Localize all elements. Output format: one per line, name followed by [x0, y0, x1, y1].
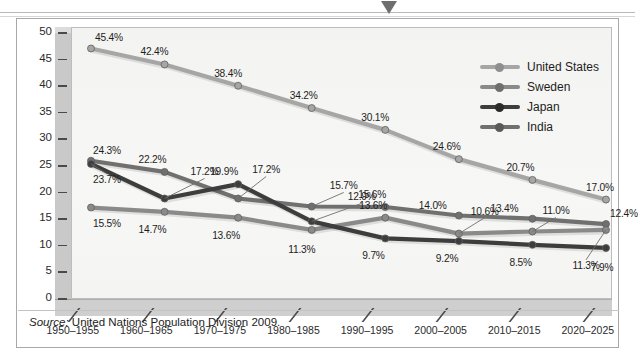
page-rule-top [0, 12, 635, 13]
data-point[interactable] [382, 214, 389, 221]
data-label: 42.4% [141, 46, 169, 57]
data-label: 19.9% [210, 166, 238, 177]
data-label: 14.0% [419, 200, 447, 211]
label-leader-line [312, 192, 344, 206]
y-tick-label: 20 [30, 185, 52, 197]
page-rule-top-secondary [0, 16, 635, 17]
data-point[interactable] [308, 105, 315, 112]
figure-box: 05101520253035404550 45.4%42.4%38.4%34.2… [16, 18, 619, 348]
data-label: 38.4% [214, 68, 242, 79]
data-label: 14.7% [139, 224, 167, 235]
legend-marker-united-states [480, 61, 520, 73]
data-point[interactable] [161, 61, 168, 68]
data-label: 20.7% [506, 162, 534, 173]
data-label: 45.4% [95, 32, 123, 43]
y-tick-label: 50 [30, 25, 52, 37]
source-text: United Nations Population Division 2009. [69, 316, 281, 328]
data-label: 13.6% [359, 200, 387, 211]
y-tick-label: 30 [30, 131, 52, 143]
data-label: 24.6% [433, 141, 461, 152]
data-label: 22.2% [139, 154, 167, 165]
legend-marker-sweden [480, 81, 520, 93]
data-label: 15.7% [330, 180, 358, 191]
x-tick-label: 2000–2005 [414, 324, 467, 336]
down-triangle-icon [381, 1, 397, 14]
source-note: Source: United Nations Population Divisi… [29, 316, 280, 328]
y-tick-label: 35 [30, 105, 52, 117]
data-label: 8.5% [509, 257, 531, 268]
y-tick-label: 5 [30, 264, 52, 276]
data-label: 30.1% [361, 112, 389, 123]
data-label: 12.4% [610, 208, 638, 219]
y-tick-label: 15 [30, 211, 52, 223]
x-tick-label: 2020–2025 [562, 324, 615, 336]
data-point[interactable] [603, 244, 610, 251]
data-label: 24.3% [93, 145, 121, 156]
data-label: 9.7% [362, 250, 384, 261]
data-label: 11.0% [542, 205, 569, 216]
data-label: 17.2% [252, 164, 280, 175]
data-label: 9.2% [436, 253, 458, 264]
legend-item-sweden[interactable]: Sweden [480, 77, 599, 97]
data-point[interactable] [382, 235, 389, 242]
legend-label-united-states: United States [527, 60, 599, 74]
data-point[interactable] [455, 238, 462, 245]
legend-label-japan: Japan [527, 100, 560, 114]
data-point[interactable] [88, 45, 95, 52]
legend-item-united-states[interactable]: United States [480, 57, 599, 77]
source-divider [18, 310, 619, 311]
y-tick-label: 25 [30, 158, 52, 170]
data-point[interactable] [235, 181, 242, 188]
legend-label-india: India [527, 120, 553, 134]
y-tick-label: 0 [30, 291, 52, 303]
data-point[interactable] [529, 215, 536, 222]
legend-item-india[interactable]: India [480, 117, 599, 137]
data-point[interactable] [382, 126, 389, 133]
source-prefix: Source: [29, 316, 69, 328]
data-point[interactable] [235, 82, 242, 89]
chart-legend: United States Sweden Japan India [480, 57, 599, 137]
data-point[interactable] [161, 208, 168, 215]
data-label: 11.3% [288, 244, 315, 255]
data-label: 11.3% [573, 260, 600, 271]
legend-item-japan[interactable]: Japan [480, 97, 599, 117]
data-point[interactable] [455, 156, 462, 163]
data-point[interactable] [529, 241, 536, 248]
data-point[interactable] [308, 226, 315, 233]
y-tick-label: 45 [30, 52, 52, 64]
data-label: 17.0% [586, 182, 614, 193]
y-tick-label: 10 [30, 238, 52, 250]
data-point[interactable] [235, 214, 242, 221]
data-point[interactable] [603, 196, 610, 203]
data-point[interactable] [529, 176, 536, 183]
data-label: 15.5% [93, 218, 121, 229]
legend-marker-india [480, 121, 520, 133]
legend-label-sweden: Sweden [527, 80, 570, 94]
legend-marker-japan [480, 101, 520, 113]
data-label: 10.6% [471, 206, 499, 217]
data-point[interactable] [88, 204, 95, 211]
x-tick-label: 1990–1995 [341, 324, 394, 336]
data-label: 13.6% [212, 230, 240, 241]
x-tick-label: 2010–2015 [488, 324, 541, 336]
data-label: 23.7% [93, 174, 121, 185]
data-label: 34.2% [290, 90, 318, 101]
data-point[interactable] [161, 168, 168, 175]
y-tick-label: 40 [30, 78, 52, 90]
